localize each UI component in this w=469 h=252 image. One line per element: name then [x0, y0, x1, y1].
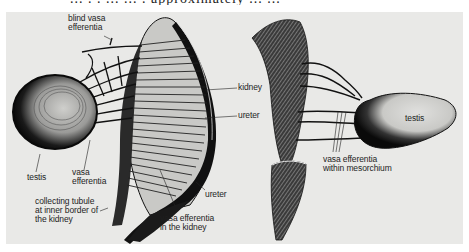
- anatomy-figure: ... . . ... ... . approximately ... ...: [0, 0, 469, 252]
- left-testis: [13, 75, 97, 149]
- label-kidney: kidney: [238, 83, 262, 92]
- label-blind-vasa-efferentia: blind vasa efferentia: [68, 14, 105, 32]
- label-vasa-efferentia-in-kidney: vasa efferentia in the kidney: [160, 214, 214, 232]
- label-testis-right: testis: [405, 114, 424, 123]
- label-ureter-upper: ureter: [238, 111, 260, 120]
- label-vasa-efferentia: vasa efferentia: [72, 168, 106, 186]
- left-kidney: [112, 18, 216, 244]
- label-vasa-efferentia-mesorchium: vasa efferentia within mesorchium: [323, 155, 392, 173]
- label-testis-left: testis: [27, 173, 46, 182]
- right-kidney: [252, 20, 308, 240]
- label-ureter-lower: ureter: [205, 190, 227, 199]
- right-leader-lines: [333, 112, 346, 152]
- label-collecting-tubule: collecting tubule at inner border of the…: [35, 197, 98, 224]
